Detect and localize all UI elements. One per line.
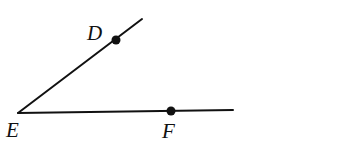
ray-ef bbox=[18, 110, 233, 113]
ray-ed bbox=[18, 19, 142, 113]
point-f bbox=[167, 107, 176, 116]
point-d bbox=[112, 36, 121, 45]
label-e: E bbox=[5, 118, 19, 142]
label-d: D bbox=[86, 21, 102, 45]
label-f: F bbox=[161, 119, 175, 143]
angle-diagram: D E F bbox=[0, 0, 354, 148]
